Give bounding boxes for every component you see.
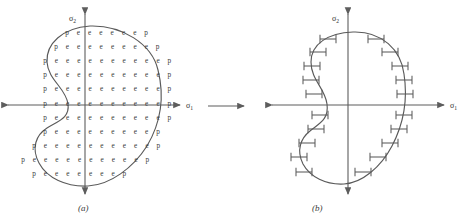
perimeter-node-glyph: p <box>43 127 47 136</box>
element-glyph: e <box>134 56 137 65</box>
element-glyph: e <box>111 42 114 51</box>
element-glyph: e <box>89 70 92 79</box>
element-glyph: e <box>111 127 114 136</box>
element-glyph: e <box>111 113 114 122</box>
perimeter-node-glyph: p <box>54 42 58 51</box>
element-glyph: e <box>156 70 159 79</box>
element-glyph: e <box>66 56 69 65</box>
element-glyph: e <box>66 84 69 93</box>
element-glyph: e <box>145 113 148 122</box>
perimeter-node-glyph: p <box>167 56 171 65</box>
element-glyph: e <box>77 28 80 37</box>
element-glyph: e <box>66 141 69 150</box>
element-glyph: e <box>145 56 148 65</box>
element-glyph: e <box>55 141 58 150</box>
element-glyph: e <box>111 70 114 79</box>
panel-b: σ1 σ2 <box>272 14 457 194</box>
element-glyph: e <box>145 127 148 136</box>
element-letter-grid: peeeeeeppeeeeeeeeppeeeeeeeeeeppeeeeeeeee… <box>21 28 171 178</box>
element-glyph: e <box>111 99 114 108</box>
perimeter-node-glyph: p <box>145 155 149 164</box>
perimeter-node-glyph: p <box>123 169 127 178</box>
element-glyph: e <box>156 84 159 93</box>
element-glyph: e <box>66 113 69 122</box>
perimeter-node-glyph: p <box>167 113 171 122</box>
caption-a: (a) <box>78 203 89 213</box>
element-glyph: e <box>100 56 103 65</box>
yield-surface-curve-b <box>300 32 406 184</box>
element-glyph: e <box>156 56 159 65</box>
boundary-tick-icon <box>303 76 319 84</box>
element-glyph: e <box>100 99 103 108</box>
element-glyph: e <box>77 56 80 65</box>
perimeter-node-glyph: p <box>156 141 160 150</box>
element-glyph: e <box>66 99 69 108</box>
perimeter-node-glyph: p <box>32 141 36 150</box>
element-glyph: e <box>111 28 114 37</box>
element-glyph: e <box>133 28 136 37</box>
element-glyph: e <box>44 141 47 150</box>
sigma1-label-a: σ1 <box>186 101 193 111</box>
perimeter-node-glyph: p <box>167 84 171 93</box>
element-glyph: e <box>66 127 69 136</box>
element-glyph: e <box>145 99 148 108</box>
element-glyph: e <box>134 127 137 136</box>
element-glyph: e <box>55 84 58 93</box>
element-glyph: e <box>111 56 114 65</box>
perimeter-node-glyph: p <box>167 99 171 108</box>
boundary-tick-icon <box>296 168 312 176</box>
element-glyph: e <box>111 169 114 178</box>
element-glyph: e <box>77 70 80 79</box>
element-glyph: e <box>77 84 80 93</box>
element-glyph: e <box>100 141 103 150</box>
element-glyph: e <box>122 28 125 37</box>
element-glyph: e <box>112 155 115 164</box>
element-glyph: e <box>66 169 69 178</box>
element-glyph: e <box>122 84 125 93</box>
element-glyph: e <box>134 99 137 108</box>
boundary-tick-icon <box>382 48 398 56</box>
element-glyph: e <box>89 155 92 164</box>
element-glyph: e <box>77 99 80 108</box>
element-glyph: e <box>100 42 103 51</box>
element-glyph: e <box>89 127 92 136</box>
figure-canvas: σ1 σ2 peeeeeeppeeeeeeeeppeeeeeeeeeeppeee… <box>0 0 464 222</box>
element-glyph: e <box>145 141 148 150</box>
perimeter-node-glyph: p <box>43 56 47 65</box>
caption-b: (b) <box>312 203 323 213</box>
element-glyph: e <box>133 42 136 51</box>
element-glyph: e <box>100 113 103 122</box>
figure-svg: σ1 σ2 peeeeeeppeeeeeeeeppeeeeeeeeeeppeee… <box>0 0 464 222</box>
boundary-tick-icon <box>382 139 398 147</box>
perimeter-node-glyph: p <box>43 84 47 93</box>
element-glyph: e <box>122 42 125 51</box>
perimeter-node-glyph: p <box>167 70 171 79</box>
element-glyph: e <box>156 99 159 108</box>
element-glyph: e <box>122 70 125 79</box>
element-glyph: e <box>145 42 148 51</box>
element-glyph: e <box>55 113 58 122</box>
element-glyph: e <box>122 99 125 108</box>
boundary-tick-icon <box>299 139 315 147</box>
boundary-tick-icon <box>306 90 322 98</box>
element-glyph: e <box>66 42 69 51</box>
element-glyph: e <box>88 28 91 37</box>
element-glyph: e <box>134 155 137 164</box>
perimeter-node-glyph: p <box>156 127 160 136</box>
sigma2-label-b: σ2 <box>332 14 339 24</box>
boundary-tick-icon <box>320 35 336 43</box>
perimeter-node-glyph: p <box>43 70 47 79</box>
element-glyph: e <box>100 70 103 79</box>
element-glyph: e <box>123 155 126 164</box>
element-glyph: e <box>122 127 125 136</box>
boundary-tick-icon <box>391 125 407 133</box>
element-glyph: e <box>122 113 125 122</box>
element-glyph: e <box>66 70 69 79</box>
perimeter-node-glyph: p <box>21 155 25 164</box>
perimeter-node-glyph: p <box>65 28 69 37</box>
element-glyph: e <box>99 28 102 37</box>
element-glyph: e <box>111 84 114 93</box>
element-glyph: e <box>134 84 137 93</box>
element-glyph: e <box>55 70 58 79</box>
sigma2-label-a: σ2 <box>69 14 76 24</box>
